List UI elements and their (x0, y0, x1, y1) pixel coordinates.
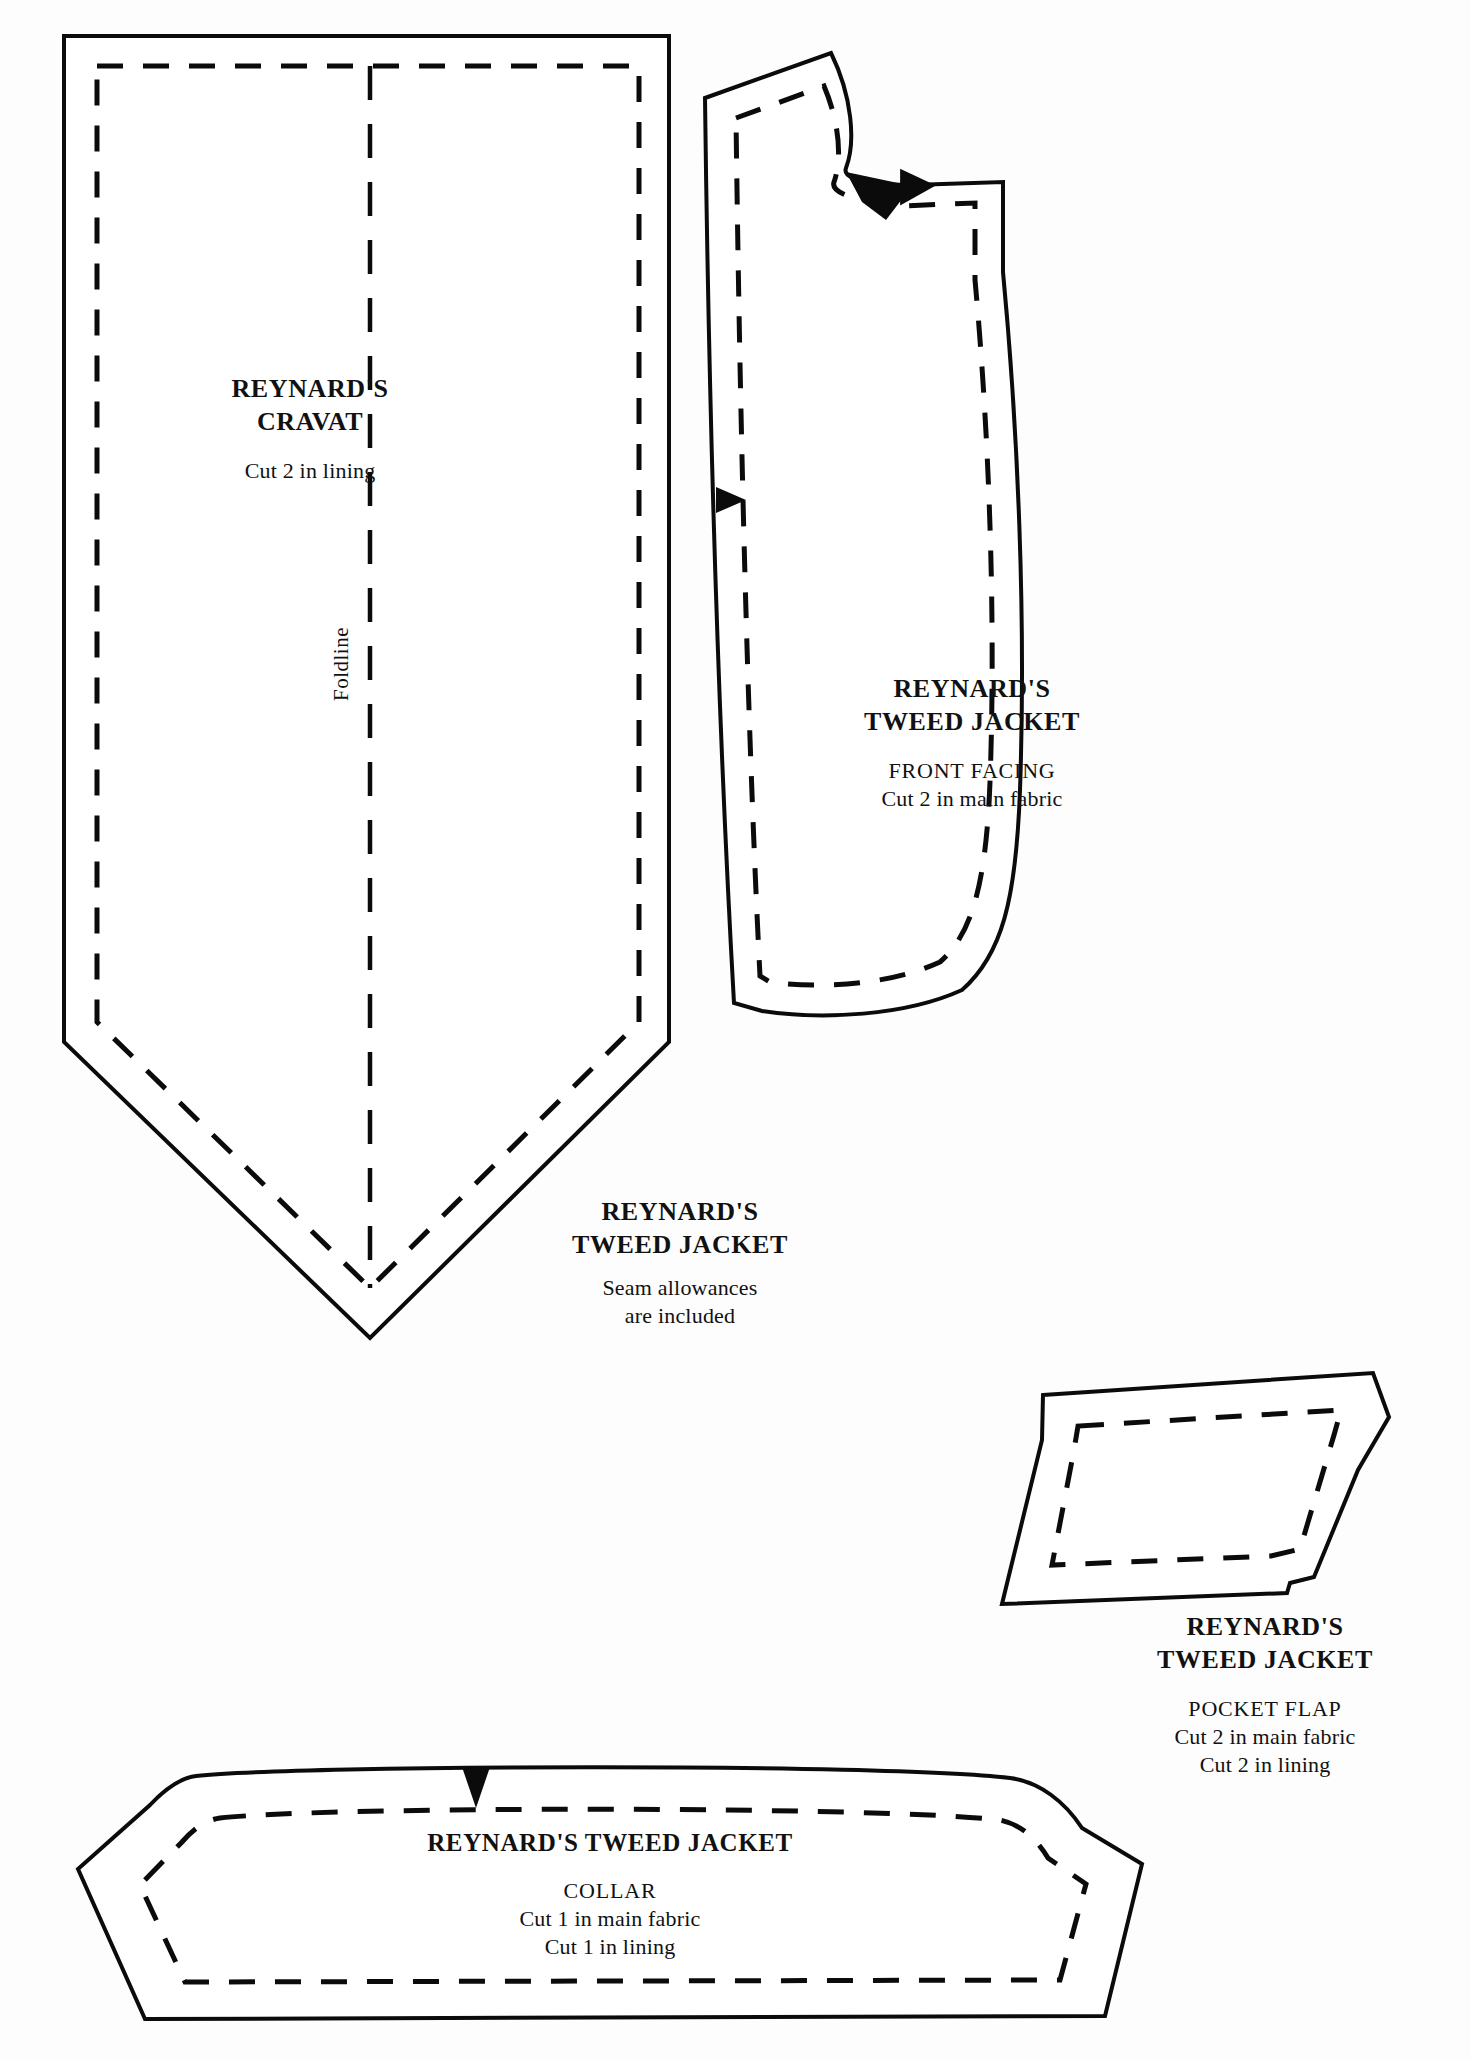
front-facing-subtitle: FRONT FACING (742, 757, 1202, 785)
front-facing-label-block: REYNARD'S TWEED JACKET FRONT FACING Cut … (742, 672, 1202, 813)
pocket-flap-title-line-1: REYNARD'S (1065, 1610, 1465, 1643)
pocket-flap-shape-group (1002, 1373, 1389, 1604)
pocket-flap-cutline (1002, 1373, 1389, 1604)
cravat-title-line-1: REYNARD'S (100, 372, 520, 405)
front-facing-side-notch-icon (716, 487, 746, 513)
front-facing-shape-group (705, 53, 1022, 1015)
collar-cut-instruction-2: Cut 1 in lining (300, 1933, 920, 1961)
cravat-cutline (64, 36, 669, 1338)
cravat-title-line-2: CRAVAT (100, 405, 520, 438)
cravat-cut-instruction: Cut 2 in lining (100, 457, 520, 485)
collar-subtitle: COLLAR (300, 1877, 920, 1905)
pocket-flap-title-line-2: TWEED JACKET (1065, 1643, 1465, 1676)
front-facing-cut-instruction: Cut 2 in main fabric (742, 785, 1202, 813)
jacket-seam-allowance-note-line-2: are included (450, 1302, 910, 1330)
pocket-flap-subtitle: POCKET FLAP (1065, 1695, 1465, 1723)
neckline-notch-triangle-icon (900, 169, 936, 206)
cravat-seamline (97, 66, 639, 1288)
front-facing-cutline (705, 53, 1022, 1015)
collar-center-back-notch-icon (462, 1767, 490, 1808)
front-facing-seamline (736, 86, 992, 985)
collar-cut-instruction-1: Cut 1 in main fabric (300, 1905, 920, 1933)
collar-label-block: REYNARD'S TWEED JACKET COLLAR Cut 1 in m… (300, 1827, 920, 1961)
cravat-label-block: REYNARD'S CRAVAT Cut 2 in lining (100, 372, 520, 485)
front-facing-title-line-1: REYNARD'S (742, 672, 1202, 705)
front-facing-neckline-notch-icon (846, 172, 912, 220)
jacket-general-title-line-2: TWEED JACKET (450, 1228, 910, 1261)
pocket-flap-seamline (1052, 1410, 1341, 1565)
jacket-general-title-line-1: REYNARD'S (450, 1195, 910, 1228)
jacket-seam-allowance-note-line-1: Seam allowances (450, 1274, 910, 1302)
pocket-flap-label-block: REYNARD'S TWEED JACKET POCKET FLAP Cut 2… (1065, 1610, 1465, 1779)
cravat-foldline-label: Foldline (329, 627, 354, 701)
pocket-flap-cut-instruction-2: Cut 2 in lining (1065, 1751, 1465, 1779)
cravat-shape-group (64, 36, 669, 1338)
collar-title: REYNARD'S TWEED JACKET (300, 1827, 920, 1859)
jacket-general-label-block: REYNARD'S TWEED JACKET Seam allowances a… (450, 1195, 910, 1330)
pattern-sheet: REYNARD'S CRAVAT Cut 2 in lining Foldlin… (0, 0, 1471, 2059)
pocket-flap-cut-instruction-1: Cut 2 in main fabric (1065, 1723, 1465, 1751)
front-facing-title-line-2: TWEED JACKET (742, 705, 1202, 738)
